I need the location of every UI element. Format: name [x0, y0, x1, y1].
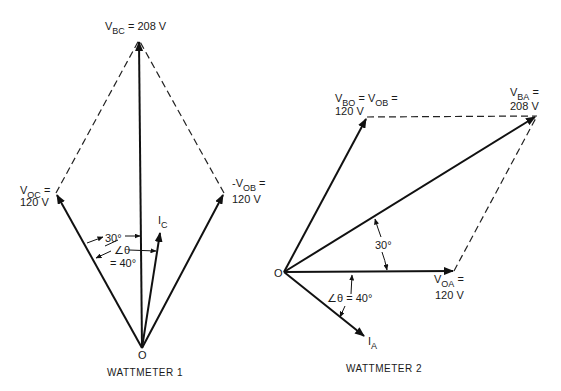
label-neg-v-ob-value: 120 V	[232, 193, 261, 205]
label-v-oa: VOA =	[434, 273, 464, 289]
label-angle-theta: ∠θ = 40°	[327, 292, 372, 304]
label-origin-1: O	[138, 349, 147, 361]
label-angle-theta: ∠θ	[114, 244, 130, 256]
angle-30-arrow-up	[375, 219, 381, 237]
dashed-edge-left	[56, 40, 139, 193]
label-origin-2: O	[274, 267, 283, 279]
dashed-edge-right	[454, 116, 537, 271]
angle-30-arrow-left	[87, 237, 103, 243]
label-i-c: IC	[158, 214, 168, 230]
angle-30-arrow-down	[382, 252, 387, 270]
vector-v-oc	[57, 195, 142, 348]
angle-theta-arrow-right	[129, 250, 156, 251]
label-v-ba-value: 208 V	[510, 100, 539, 112]
angle-theta-arrow-left	[96, 251, 111, 258]
wattmeter-2-diagram: VBO = VOB = 120 V VBA = 208 V VOA = 120 …	[274, 86, 539, 374]
vector-v-oa	[284, 271, 453, 272]
caption-wattmeter-1: WATTMETER 1	[107, 367, 183, 378]
dashed-edge-right	[139, 40, 224, 193]
vector-v-ba	[284, 117, 535, 272]
label-angle-theta-value: = 40°	[110, 257, 136, 269]
label-angle-30: 30°	[375, 239, 392, 251]
label-v-oc-value: 120 V	[20, 196, 49, 208]
vector-v-bc	[139, 42, 142, 348]
label-v-oa-value: 120 V	[435, 289, 464, 301]
angle-theta-arrow-down	[340, 306, 345, 317]
wattmeter-1-diagram: VBC = 208 V VOC = 120 V -VOB = 120 V IC …	[20, 20, 266, 378]
dashed-edge-top	[367, 116, 537, 117]
label-angle-30: 30°	[105, 232, 122, 244]
label-neg-v-ob: -VOB =	[232, 177, 266, 193]
label-i-a: IA	[368, 335, 377, 351]
phasor-diagrams: VBC = 208 V VOC = 120 V -VOB = 120 V IC …	[0, 0, 561, 391]
vector-v-bo	[284, 119, 366, 272]
label-v-bc: VBC = 208 V	[105, 20, 167, 36]
caption-wattmeter-2: WATTMETER 2	[346, 363, 422, 374]
label-v-bo-value: 120 V	[335, 105, 364, 117]
